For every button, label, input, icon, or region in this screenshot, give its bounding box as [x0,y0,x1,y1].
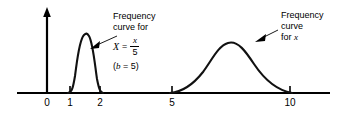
annotation-right-line3-prefix: for [281,32,294,42]
annotation-right-line3: for x [281,32,324,43]
annotation-left-line1: Frequency [113,11,156,22]
annotation-right-line1: Frequency [281,10,324,21]
annotation-right-variable: x [294,32,298,42]
note-rest: = 5) [121,61,139,71]
formula-numerator: x [131,36,139,46]
formula-equals: = [122,41,127,52]
formula-lhs: X [113,41,119,52]
leader-line-right [264,30,278,37]
annotation-right-line2: curve [281,21,324,32]
formula-fraction: x 5 [130,36,139,57]
x-tick-label-1: 1 [59,97,81,108]
annotation-left-note: (b = 5) [113,61,156,72]
x-tick-label-10: 10 [279,97,301,108]
annotation-frequency-curve-for-x: Frequency curve for x [281,10,324,43]
annotation-frequency-curve-for-X: Frequency curve for X = x 5 (b = 5) [113,11,156,72]
annotation-left-formula: X = x 5 [113,36,156,57]
x-tick-label-2: 2 [89,97,111,108]
curve-frequency-for-x [170,43,292,93]
frequency-curve-figure: 0 1 2 5 10 Frequency curve for X = x 5 (… [0,0,345,124]
y-axis-arrow-icon [43,7,51,17]
x-tick-label-0: 0 [36,97,58,108]
annotation-left-line2: curve for [113,22,156,33]
leader-arrowhead-right-icon [255,34,266,42]
curve-frequency-for-X [68,34,103,93]
x-tick-label-5: 5 [161,97,183,108]
formula-denominator: 5 [130,47,139,57]
